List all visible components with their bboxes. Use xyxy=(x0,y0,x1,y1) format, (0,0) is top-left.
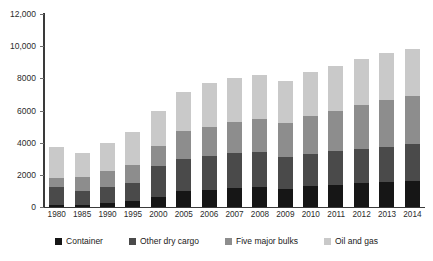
bar-segment xyxy=(354,149,369,184)
bar-segment xyxy=(75,205,90,207)
bar-segment xyxy=(100,171,115,187)
bar-segment xyxy=(49,178,64,188)
bar-segment xyxy=(176,159,191,191)
y-axis-tick-label: 0 xyxy=(31,203,36,212)
bar-segment xyxy=(252,119,267,152)
bar-segment xyxy=(379,182,394,207)
x-axis-tick-label: 2010 xyxy=(298,210,323,220)
bar-segment xyxy=(354,105,369,149)
legend-swatch-icon xyxy=(225,238,232,245)
bar-segment xyxy=(75,177,90,191)
x-axis-tick-label: 2008 xyxy=(247,210,272,220)
bar-segment xyxy=(252,152,267,187)
x-axis-tick-label: 2005 xyxy=(171,210,196,220)
bar-segment xyxy=(328,111,343,151)
x-axis-tick-label: 2013 xyxy=(374,210,399,220)
x-axis-tick-label: 2014 xyxy=(400,210,425,220)
bar-segment xyxy=(379,100,394,147)
bar-segment xyxy=(202,127,217,156)
y-axis-tick xyxy=(40,143,44,144)
y-axis-tick xyxy=(40,175,44,176)
x-axis-tick-label: 1995 xyxy=(120,210,145,220)
y-axis-tick-label: 10,000 xyxy=(10,42,36,51)
legend-label: Five major bulks xyxy=(236,236,298,246)
bar-segment xyxy=(303,116,318,154)
bar-segment xyxy=(100,203,115,207)
legend-swatch-icon xyxy=(129,238,136,245)
legend-label: Oil and gas xyxy=(335,236,378,246)
bar-segment xyxy=(379,147,394,182)
legend-item[interactable]: Five major bulks xyxy=(225,236,298,246)
bar-segment xyxy=(303,72,318,117)
x-axis-line xyxy=(43,207,425,208)
bar-segment xyxy=(151,166,166,197)
y-axis-tick-label: 6000 xyxy=(17,106,36,115)
bar-segment xyxy=(202,83,217,126)
legend-item[interactable]: Oil and gas xyxy=(324,236,378,246)
x-axis-tick-label: 2012 xyxy=(349,210,374,220)
bar-group xyxy=(125,14,140,207)
x-axis-labels: 1980198519901995200020052006200720082009… xyxy=(44,210,425,220)
x-axis-tick-label: 2000 xyxy=(146,210,171,220)
bar-segment xyxy=(328,185,343,207)
bar-segment xyxy=(278,157,293,189)
bar-segment xyxy=(49,147,64,177)
bar-segment xyxy=(405,144,420,181)
bar-segment xyxy=(125,201,140,207)
bar-segment xyxy=(405,181,420,207)
bar-group xyxy=(354,14,369,207)
y-axis-tick xyxy=(40,14,44,15)
y-axis-tick-label: 2000 xyxy=(17,170,36,179)
y-axis-tick-label: 12,000 xyxy=(10,10,36,19)
bar-segment xyxy=(100,187,115,204)
bar-group xyxy=(75,14,90,207)
bar-segment xyxy=(278,189,293,207)
bar-segment xyxy=(278,123,293,157)
bar-segment xyxy=(227,78,242,122)
x-axis-tick-label: 1985 xyxy=(69,210,94,220)
bar-group xyxy=(303,14,318,207)
y-axis-tick xyxy=(40,111,44,112)
x-axis-tick-label: 2009 xyxy=(273,210,298,220)
y-axis-tick-label: 8000 xyxy=(17,74,36,83)
bar-group xyxy=(176,14,191,207)
bar-segment xyxy=(125,165,140,183)
bar-segment xyxy=(405,49,420,96)
legend-label: Other dry cargo xyxy=(140,236,199,246)
bar-segment xyxy=(49,187,64,205)
bar-segment xyxy=(100,143,115,171)
bar-group xyxy=(151,14,166,207)
x-axis-tick-label: 1990 xyxy=(95,210,120,220)
bar-segment xyxy=(354,59,369,105)
chart-legend: ContainerOther dry cargoFive major bulks… xyxy=(0,236,433,246)
y-axis-labels: 12,00010,00080006000400020000 xyxy=(0,0,41,261)
legend-swatch-icon xyxy=(324,238,331,245)
x-axis-tick-label: 2006 xyxy=(196,210,221,220)
bar-group xyxy=(278,14,293,207)
bar-segment xyxy=(176,191,191,207)
bar-group xyxy=(202,14,217,207)
bar-segment xyxy=(405,96,420,144)
bar-segment xyxy=(75,153,90,176)
bar-segment xyxy=(151,197,166,207)
bar-group xyxy=(100,14,115,207)
y-axis-tick xyxy=(40,46,44,47)
bar-segment xyxy=(227,188,242,207)
bar-segment xyxy=(151,111,166,146)
stacked-bar-chart: 12,00010,00080006000400020000 1980198519… xyxy=(0,0,433,261)
x-axis-tick-label: 2007 xyxy=(222,210,247,220)
bar-group xyxy=(252,14,267,207)
bar-segment xyxy=(379,53,394,100)
bar-segment xyxy=(328,151,343,185)
legend-item[interactable]: Other dry cargo xyxy=(129,236,199,246)
bar-segment xyxy=(151,146,166,167)
bar-series-container xyxy=(44,14,425,207)
bar-group xyxy=(405,14,420,207)
bar-segment xyxy=(227,122,242,153)
y-axis-tick xyxy=(40,207,44,208)
legend-item[interactable]: Container xyxy=(55,236,103,246)
bar-segment xyxy=(303,154,318,187)
bar-segment xyxy=(328,66,343,111)
bar-segment xyxy=(49,205,64,207)
bar-segment xyxy=(176,92,191,131)
